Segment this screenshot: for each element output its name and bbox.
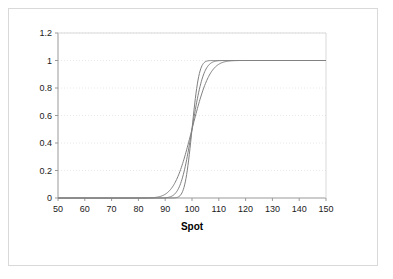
y-tick-label: 0: [28, 193, 52, 203]
y-tick-label: 0.4: [28, 138, 52, 148]
x-tick-label: 110: [207, 204, 231, 214]
y-tick-label: 1.2: [28, 28, 52, 38]
y-tick-label: 1: [28, 56, 52, 66]
x-tick-label: 90: [153, 204, 177, 214]
plot-frame: [58, 33, 326, 198]
x-tick-label: 60: [73, 204, 97, 214]
x-axis-title: Spot: [58, 221, 326, 232]
gridlines: [58, 33, 326, 171]
x-tick-label: 140: [287, 204, 311, 214]
x-tick-label: 80: [126, 204, 150, 214]
x-tick-label: 150: [314, 204, 338, 214]
series-line-steepest: [58, 61, 326, 199]
x-tick-label: 100: [180, 204, 204, 214]
y-tick-label: 0.2: [28, 166, 52, 176]
data-series-group: [58, 61, 326, 199]
y-tick-label: 0.6: [28, 111, 52, 121]
axis-ticks: [55, 33, 326, 201]
y-tick-label: 0.8: [28, 83, 52, 93]
x-tick-label: 50: [46, 204, 70, 214]
x-tick-label: 130: [260, 204, 284, 214]
x-tick-label: 120: [234, 204, 258, 214]
chart-plot-canvas: [0, 0, 393, 279]
x-tick-label: 70: [100, 204, 124, 214]
